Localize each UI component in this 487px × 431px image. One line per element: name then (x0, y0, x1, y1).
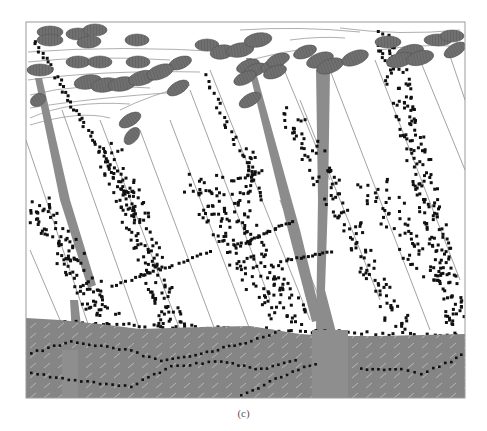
diagram-figure (0, 0, 487, 431)
figure-caption: (c) (0, 407, 487, 419)
ellipsoid-bodies (27, 24, 468, 148)
substrate-layer (26, 318, 465, 398)
trunk-base (312, 330, 348, 398)
root-base (62, 350, 78, 398)
